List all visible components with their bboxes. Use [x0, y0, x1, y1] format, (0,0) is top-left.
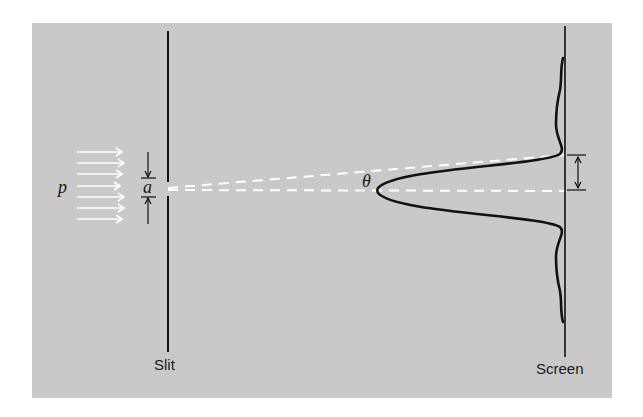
- intensity-pattern-curve: [377, 58, 563, 322]
- diffraction-diagram: p a θ Slit Screen: [0, 0, 643, 417]
- slit-label: Slit: [154, 356, 176, 373]
- slit-width-label: a: [143, 177, 152, 197]
- screen-label: Screen: [536, 360, 584, 377]
- momentum-label: p: [56, 177, 67, 197]
- screen-dimension-arrow: [567, 155, 586, 190]
- angle-label: θ: [362, 171, 371, 191]
- incident-wave-arrows: [77, 148, 124, 223]
